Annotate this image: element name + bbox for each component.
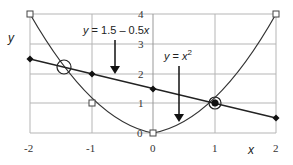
intersection-dot xyxy=(212,100,219,107)
y-tick-2: 2 xyxy=(138,68,144,80)
parabola-annotation-label: y = x2 xyxy=(163,48,193,62)
chart: 4 3 2 1 0 -2 -1 0 1 2 y x y = 1.5 – 0.5x xyxy=(0,0,293,165)
x-tick-labels: -2 -1 0 1 2 xyxy=(24,142,279,154)
arrow-down-icon xyxy=(110,66,120,74)
x-tick-0: 0 xyxy=(150,142,156,154)
x-axis-label: x xyxy=(247,143,255,157)
x-tick-neg2: -2 xyxy=(24,142,33,154)
y-tick-4: 4 xyxy=(138,8,144,20)
y-tick-1: 1 xyxy=(138,97,144,109)
line-annotation-label: y = 1.5 – 0.5x xyxy=(82,24,150,36)
x-tick-2: 2 xyxy=(273,142,279,154)
x-tick-neg1: -1 xyxy=(86,142,95,154)
x-tick-1: 1 xyxy=(212,142,218,154)
y-tick-3: 3 xyxy=(138,38,144,50)
arrow-down-icon xyxy=(174,114,184,122)
y-axis-label: y xyxy=(7,31,15,45)
